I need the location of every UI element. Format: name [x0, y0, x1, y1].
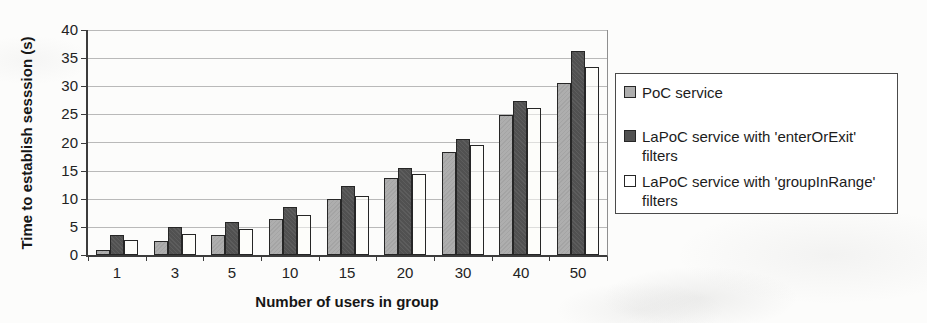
- bar-series1-group20: [398, 168, 412, 255]
- x-tick-mark: [261, 257, 262, 261]
- category-label-40: 40: [492, 264, 550, 281]
- y-tick-mark: [81, 58, 86, 59]
- y-tick-mark: [81, 30, 86, 31]
- bar-series1-group50: [571, 51, 585, 255]
- bar-series1-group40: [513, 101, 527, 255]
- legend-swatch-groupinrange: [624, 175, 636, 187]
- bar-series0-group40: [499, 115, 513, 255]
- y-tick-mark: [81, 143, 86, 144]
- bar-series0-group3: [154, 241, 168, 255]
- bar-series0-group10: [269, 219, 283, 255]
- category-label-10: 10: [261, 264, 319, 281]
- figure: Time to establish sesssion (s) 051015202…: [0, 0, 927, 323]
- x-tick-mark: [549, 257, 550, 261]
- y-tick-mark: [81, 199, 86, 200]
- x-tick-mark: [88, 257, 89, 261]
- y-tick-mark: [81, 255, 86, 256]
- category-label-3: 3: [146, 264, 204, 281]
- y-tick-label-15: 15: [38, 162, 78, 180]
- bar-series0-group30: [442, 152, 456, 255]
- x-tick-mark: [376, 257, 377, 261]
- y-tick-label-10: 10: [38, 190, 78, 208]
- gridline-30: [88, 86, 607, 87]
- gridline-40: [88, 30, 607, 31]
- x-tick-mark: [492, 257, 493, 261]
- bar-series1-group5: [225, 222, 239, 255]
- category-label-30: 30: [434, 264, 492, 281]
- legend-swatch-poc: [624, 86, 636, 98]
- bar-series0-group20: [384, 178, 398, 255]
- category-label-15: 15: [318, 264, 376, 281]
- y-tick-mark: [81, 227, 86, 228]
- bar-series2-group30: [470, 145, 484, 255]
- category-label-1: 1: [88, 264, 146, 281]
- x-tick-mark: [203, 257, 204, 261]
- x-axis-title: Number of users in group: [255, 293, 438, 310]
- bar-series2-group10: [297, 215, 311, 255]
- bar-series2-group5: [239, 229, 253, 255]
- category-label-50: 50: [549, 264, 607, 281]
- legend-label: LaPoC service with 'groupInRange' filter…: [642, 172, 891, 210]
- y-tick-label-40: 40: [38, 21, 78, 39]
- y-tick-label-25: 25: [38, 105, 78, 123]
- bar-series1-group30: [456, 139, 470, 255]
- x-tick-mark: [434, 257, 435, 261]
- category-label-5: 5: [203, 264, 261, 281]
- bar-series1-group10: [283, 207, 297, 255]
- legend: PoC service LaPoC service with 'enterOrE…: [615, 73, 898, 214]
- y-tick-mark: [81, 171, 86, 172]
- y-tick-label-30: 30: [38, 77, 78, 95]
- y-tick-mark: [81, 86, 86, 87]
- bar-series2-group1: [124, 240, 138, 255]
- bar-series0-group50: [557, 83, 571, 255]
- legend-item: LaPoC service with 'enterOrExit' filters: [624, 127, 891, 165]
- bar-series2-group3: [182, 234, 196, 255]
- x-tick-mark: [146, 257, 147, 261]
- legend-item: PoC service: [624, 83, 891, 102]
- bar-series2-group15: [355, 196, 369, 255]
- x-tick-mark: [319, 257, 320, 261]
- y-axis-title: Time to establish sesssion (s): [18, 36, 35, 249]
- y-tick-label-0: 0: [38, 246, 78, 264]
- bar-series2-group40: [527, 108, 541, 255]
- gridline-35: [88, 58, 607, 59]
- y-tick-label-5: 5: [38, 218, 78, 236]
- legend-label: PoC service: [642, 83, 723, 102]
- bar-series0-group5: [211, 235, 225, 255]
- legend-item: LaPoC service with 'groupInRange' filter…: [624, 172, 891, 210]
- y-tick-label-20: 20: [38, 134, 78, 152]
- category-label-20: 20: [376, 264, 434, 281]
- bar-series1-group3: [168, 227, 182, 255]
- bar-series1-group1: [110, 235, 124, 255]
- x-tick-mark: [607, 257, 608, 261]
- y-tick-label-35: 35: [38, 49, 78, 67]
- bar-series0-group15: [327, 199, 341, 255]
- bar-series1-group15: [341, 186, 355, 255]
- plot-area: [86, 30, 608, 257]
- legend-label: LaPoC service with 'enterOrExit' filters: [642, 127, 891, 165]
- bar-series2-group20: [412, 174, 426, 255]
- y-tick-mark: [81, 114, 86, 115]
- legend-swatch-enterorexit: [624, 130, 636, 142]
- bar-series2-group50: [585, 67, 599, 255]
- bar-series0-group1: [96, 250, 110, 255]
